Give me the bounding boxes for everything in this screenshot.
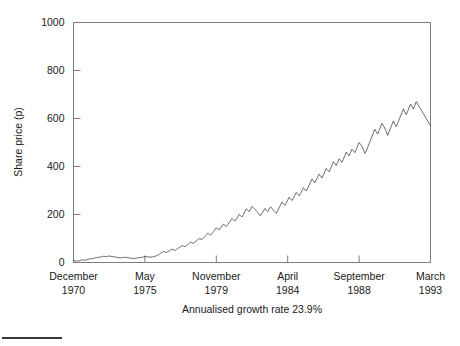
x-tick-label-year: 1975 (133, 284, 157, 296)
x-tick-label-month: November (192, 270, 241, 282)
y-tick-label: 1000 (41, 16, 65, 28)
x-axis: December1970May1975November1979April1984… (49, 256, 445, 296)
y-axis-title: Share price (p) (12, 107, 24, 176)
x-tick-label-year: 1979 (205, 284, 229, 296)
share-price-line-chart: 02004006008001000 December1970May1975Nov… (0, 0, 460, 346)
plot-frame (74, 23, 431, 263)
x-tick-label-year: 1970 (62, 284, 86, 296)
x-tick-label-year: 1988 (347, 284, 371, 296)
y-tick-label: 200 (47, 208, 65, 220)
y-axis: 02004006008001000 (41, 16, 80, 268)
y-tick-label: 600 (47, 112, 65, 124)
x-tick-label-month: May (135, 270, 156, 282)
x-tick-label-month: March (416, 270, 445, 282)
x-tick-label-month: September (333, 270, 385, 282)
x-tick-label-year: 1993 (419, 284, 443, 296)
x-tick-label-year: 1984 (276, 284, 300, 296)
x-tick-label-month: April (277, 270, 298, 282)
chart-subtitle: Annualised growth rate 23.9% (182, 303, 322, 315)
chart-figure: 02004006008001000 December1970May1975Nov… (0, 0, 460, 346)
x-tick-label-month: December (49, 270, 98, 282)
series-line (74, 102, 431, 261)
series-layer (74, 102, 431, 261)
y-tick-label: 800 (47, 64, 65, 76)
y-tick-label: 0 (59, 256, 65, 268)
y-tick-label: 400 (47, 160, 65, 172)
